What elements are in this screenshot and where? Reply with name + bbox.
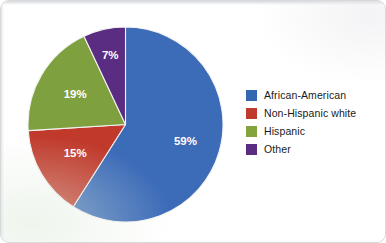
pie-data-label: 59% (174, 135, 197, 147)
frame-left-shading (1, 1, 4, 242)
legend-color-swatch (246, 144, 257, 155)
pie-data-label: 15% (64, 147, 87, 159)
legend-item[interactable]: African-American (246, 86, 378, 104)
legend-item-label: Non-Hispanic white (264, 107, 356, 119)
pie-chart: 59%15%19%7% (27, 26, 224, 223)
legend-item[interactable]: Hispanic (246, 122, 378, 140)
pie-slice-group (28, 27, 223, 222)
pie-chart-svg: 59%15%19%7% (27, 26, 224, 223)
pie-data-label: 19% (64, 88, 87, 100)
legend-item-label: Hispanic (264, 125, 305, 137)
frame-top-shading (1, 1, 385, 5)
legend-item-label: African-American (264, 89, 346, 101)
chart-legend: African-AmericanNon-Hispanic whiteHispan… (246, 86, 378, 158)
pie-data-label: 7% (102, 49, 119, 61)
legend-color-swatch (246, 90, 257, 101)
legend-item[interactable]: Other (246, 140, 378, 158)
legend-color-swatch (246, 108, 257, 119)
legend-item[interactable]: Non-Hispanic white (246, 104, 378, 122)
legend-item-label: Other (264, 143, 291, 155)
legend-color-swatch (246, 126, 257, 137)
chart-figure-frame: 59%15%19%7% African-AmericanNon-Hispanic… (0, 0, 386, 243)
